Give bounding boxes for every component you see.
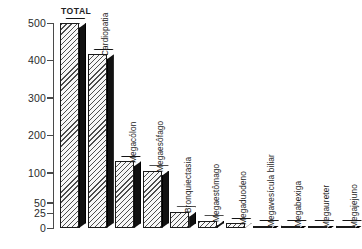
y-axis-tick-mark	[47, 135, 53, 136]
y-axis-tick-label: 0	[40, 222, 46, 234]
bar-category-label: Megaesôfago	[156, 121, 165, 172]
y-axis-tick-label: 200	[28, 129, 46, 141]
bar-group[interactable]	[143, 165, 162, 228]
y-axis-tick-label: 400	[28, 54, 46, 66]
bar-category-label: TOTAL	[61, 6, 91, 16]
bar-category-label: Megajejuno	[350, 184, 359, 228]
bar-category-label: Megacólon	[129, 121, 138, 162]
bar-side-face	[162, 171, 169, 228]
bar-category-label: Cardiopatia	[101, 12, 110, 56]
bar-chart: 50040030020010050250 TOTALCardiopatiaMeg…	[0, 0, 362, 249]
bar-front-face	[88, 54, 107, 228]
y-axis-tick-mark	[47, 60, 53, 61]
bar-group[interactable]	[60, 17, 79, 228]
bar-category-label: Megaureter	[322, 184, 331, 227]
bar-side-face	[79, 23, 86, 228]
plot-area: TOTALCardiopatiaMegacólonMegaesôfagoBron…	[54, 0, 362, 228]
y-axis-tick-label: 100	[28, 167, 46, 179]
y-axis-tick-label: 500	[28, 17, 46, 29]
y-axis-tick-mark	[47, 213, 53, 214]
bar-front-face	[115, 161, 134, 228]
y-axis-tick-mark	[47, 97, 53, 98]
y-axis-tick-mark	[47, 228, 53, 229]
y-axis-tick-mark	[47, 23, 53, 24]
bar-category-label: Megaduodeno	[239, 171, 248, 225]
bar-front-face	[170, 212, 189, 228]
y-axis-tick-label: 25	[34, 207, 46, 219]
bar-category-label: Bronquiectasia	[184, 157, 193, 213]
bar-front-face	[60, 23, 79, 228]
bar-side-face	[134, 161, 141, 228]
bar-category-label: Megaestômago	[212, 164, 221, 222]
y-axis-tick-mark	[47, 172, 53, 173]
bar-front-face	[143, 171, 162, 228]
bar-group[interactable]	[115, 155, 134, 228]
bar-category-label: Megabexiga	[294, 181, 303, 227]
y-axis-tick-mark	[47, 202, 53, 203]
bar-category-label: Megavesícula biliar	[267, 154, 276, 227]
bar-side-face	[189, 212, 196, 228]
bar-group[interactable]	[88, 48, 107, 228]
y-axis-tick-label: 300	[28, 92, 46, 104]
bar-side-face	[107, 54, 114, 228]
